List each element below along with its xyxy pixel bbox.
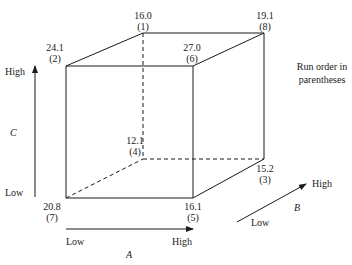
vertex-value: 16.1	[176, 201, 210, 212]
vertex-value: 15.2	[248, 163, 282, 174]
cube-depth-edges-solid	[66, 33, 264, 198]
vertex-run-order: (4)	[118, 146, 152, 157]
vertex-label-run-8: 19.1 (8)	[248, 10, 282, 32]
vertex-value: 16.0	[126, 10, 160, 21]
cube-plot-svg	[0, 0, 352, 265]
vertex-run-order: (1)	[126, 21, 160, 32]
axis-a-low-label: Low	[66, 236, 84, 247]
vertex-label-run-5: 16.1 (5)	[176, 201, 210, 223]
axis-b-high-label: High	[312, 178, 332, 189]
cube-hidden-edges	[66, 33, 264, 198]
vertex-value: 19.1	[248, 10, 282, 21]
vertex-run-order: (7)	[35, 212, 69, 223]
vertex-label-run-2: 24.1 (2)	[38, 42, 72, 64]
axis-b-name: B	[294, 202, 300, 213]
vertex-label-run-6: 27.0 (6)	[175, 42, 209, 64]
vertex-run-order: (3)	[248, 174, 282, 185]
axis-c-high-label: High	[5, 66, 25, 77]
vertex-run-order: (8)	[248, 21, 282, 32]
vertex-label-run-3: 15.2 (3)	[248, 163, 282, 185]
axis-a-high-label: High	[172, 236, 192, 247]
axis-c-low-label: Low	[5, 187, 23, 198]
vertex-label-run-7: 20.8 (7)	[35, 201, 69, 223]
vertex-run-order: (2)	[38, 53, 72, 64]
vertex-value: 20.8	[35, 201, 69, 212]
vertex-label-run-1: 16.0 (1)	[126, 10, 160, 32]
run-order-note: Run order in parentheses	[293, 60, 351, 86]
axis-c-name: C	[10, 127, 17, 138]
axis-a-name: A	[126, 249, 132, 260]
cube-front-face	[66, 66, 193, 198]
run-order-note-line-2: parentheses	[293, 73, 351, 86]
axis-b-low-label: Low	[251, 217, 269, 228]
cube-plot-diagram: 16.0 (1) 24.1 (2) 15.2 (3) 12.1 (4) 16.1…	[0, 0, 352, 265]
vertex-value: 27.0	[175, 42, 209, 53]
vertex-label-run-4: 12.1 (4)	[118, 135, 152, 157]
vertex-run-order: (6)	[175, 53, 209, 64]
vertex-run-order: (5)	[176, 212, 210, 223]
run-order-note-line-1: Run order in	[293, 60, 351, 73]
vertex-value: 24.1	[38, 42, 72, 53]
vertex-value: 12.1	[118, 135, 152, 146]
